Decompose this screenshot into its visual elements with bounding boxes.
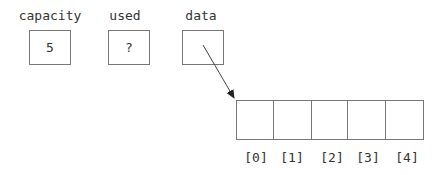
array-cell-4: [385, 100, 424, 140]
array-index-4: [4]: [388, 150, 426, 165]
array-cell-1: [273, 100, 312, 140]
array-index-1: [1]: [273, 150, 311, 165]
array-cell-3: [347, 100, 386, 140]
array-index-2: [2]: [313, 150, 351, 165]
pointer-arrow: [0, 0, 444, 175]
array-index-0: [0]: [237, 150, 275, 165]
array-index-3: [3]: [349, 150, 387, 165]
array-cell-0: [236, 100, 274, 140]
array-cell-2: [311, 100, 348, 140]
